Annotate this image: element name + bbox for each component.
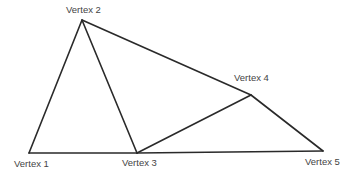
vertex-label-v1: Vertex 1 bbox=[14, 158, 49, 169]
edge-v4-v5 bbox=[251, 95, 323, 151]
vertex-label-v3: Vertex 3 bbox=[122, 157, 157, 168]
edge-v1-v2 bbox=[29, 20, 82, 153]
vertex-label-v2: Vertex 2 bbox=[66, 4, 101, 15]
edge-v2-v4 bbox=[82, 20, 251, 95]
edge-v3-v5 bbox=[137, 151, 323, 153]
edge-v3-v4 bbox=[137, 95, 251, 153]
graph-diagram: Vertex 1Vertex 2Vertex 3Vertex 4Vertex 5 bbox=[0, 0, 354, 178]
edges-group bbox=[29, 20, 323, 153]
labels-group: Vertex 1Vertex 2Vertex 3Vertex 4Vertex 5 bbox=[14, 4, 340, 169]
vertex-label-v5: Vertex 5 bbox=[305, 156, 340, 167]
vertex-label-v4: Vertex 4 bbox=[234, 72, 269, 83]
